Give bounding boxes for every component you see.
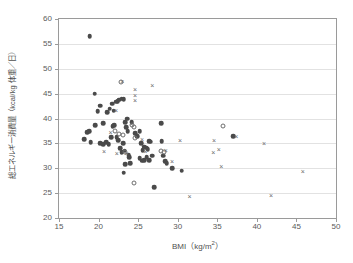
data-point-cross bbox=[169, 160, 174, 165]
y-axis-title: 総エネルギー消費量（kcal/kg 体重／日） bbox=[8, 14, 17, 214]
y-tick-label: 45 bbox=[43, 90, 52, 98]
data-point-cross bbox=[143, 149, 148, 154]
y-tick-label: 20 bbox=[43, 214, 52, 222]
data-point-cross bbox=[120, 79, 125, 84]
data-point-cross bbox=[124, 151, 129, 156]
y-gridline bbox=[59, 69, 336, 70]
data-point-filled-circle bbox=[160, 139, 165, 144]
y-tick-label: 25 bbox=[43, 189, 52, 197]
data-point-filled-circle bbox=[82, 137, 87, 142]
data-point-filled-circle bbox=[93, 123, 98, 128]
y-tick-mark bbox=[55, 94, 59, 95]
data-point-cross bbox=[150, 83, 155, 88]
data-point-cross bbox=[132, 98, 137, 103]
x-tick-label: 30 bbox=[173, 223, 182, 231]
data-point-filled-circle bbox=[159, 121, 164, 126]
y-gridline bbox=[59, 94, 336, 95]
y-tick-mark bbox=[55, 69, 59, 70]
data-point-cross bbox=[139, 137, 144, 142]
y-gridline bbox=[59, 119, 336, 120]
data-point-filled-circle bbox=[87, 129, 92, 134]
y-tick-mark bbox=[55, 193, 59, 194]
data-point-filled-circle bbox=[147, 158, 152, 163]
data-point-filled-circle bbox=[137, 129, 142, 134]
y-gridline bbox=[59, 168, 336, 169]
data-point-cross bbox=[113, 108, 118, 113]
y-gridline bbox=[59, 44, 336, 45]
data-point-cross bbox=[114, 152, 119, 157]
data-point-filled-circle bbox=[149, 140, 154, 145]
y-tick-label: 50 bbox=[43, 65, 52, 73]
data-point-filled-circle bbox=[150, 154, 155, 159]
y-gridline bbox=[59, 193, 336, 194]
x-tick-label: 50 bbox=[332, 223, 341, 231]
y-tick-label: 35 bbox=[43, 139, 52, 147]
data-point-open-circle bbox=[121, 133, 126, 138]
data-point-cross bbox=[234, 134, 239, 139]
y-tick-label: 30 bbox=[43, 164, 52, 172]
data-point-filled-circle bbox=[88, 140, 93, 145]
data-point-filled-circle bbox=[95, 109, 100, 114]
data-point-cross bbox=[177, 138, 182, 143]
x-tick-label: 45 bbox=[292, 223, 301, 231]
data-point-cross bbox=[163, 149, 168, 154]
data-point-cross bbox=[261, 141, 266, 146]
x-axis-title-unit-open: （kg/m bbox=[186, 242, 211, 251]
x-tick-label: 15 bbox=[55, 223, 64, 231]
data-point-filled-circle bbox=[126, 129, 131, 134]
x-tick-label: 40 bbox=[252, 223, 261, 231]
y-tick-label: 60 bbox=[43, 15, 52, 23]
y-tick-mark bbox=[55, 119, 59, 120]
data-point-filled-circle bbox=[179, 168, 184, 173]
x-tick-label: 35 bbox=[213, 223, 222, 231]
data-point-cross bbox=[187, 194, 192, 199]
data-point-filled-circle bbox=[112, 123, 117, 128]
y-tick-mark bbox=[55, 44, 59, 45]
data-point-open-circle bbox=[132, 135, 137, 140]
data-point-cross bbox=[108, 130, 113, 135]
data-point-cross bbox=[268, 193, 273, 198]
y-tick-label: 40 bbox=[43, 115, 52, 123]
data-point-open-circle bbox=[129, 122, 134, 127]
x-axis-title-main: BMI bbox=[172, 242, 186, 251]
y-tick-mark bbox=[55, 19, 59, 20]
x-tick-label: 25 bbox=[134, 223, 143, 231]
y-tick-mark bbox=[55, 168, 59, 169]
data-point-filled-circle bbox=[164, 161, 169, 166]
data-point-filled-circle bbox=[170, 166, 175, 171]
data-point-cross bbox=[216, 148, 221, 153]
data-point-filled-circle bbox=[121, 141, 126, 146]
data-point-filled-circle bbox=[122, 97, 127, 102]
data-point-filled-circle bbox=[107, 142, 112, 147]
y-tick-mark bbox=[55, 143, 59, 144]
x-axis-title: BMI（kg/m2） bbox=[58, 238, 337, 252]
data-point-filled-circle bbox=[101, 121, 106, 126]
plot-area: 2025303540455055601520253035404550 bbox=[58, 18, 337, 219]
x-tick-label: 20 bbox=[94, 223, 103, 231]
data-point-filled-circle bbox=[122, 170, 127, 175]
data-point-filled-circle bbox=[152, 185, 157, 190]
data-point-cross bbox=[219, 164, 224, 169]
data-point-filled-circle bbox=[123, 162, 128, 167]
data-point-filled-circle bbox=[98, 103, 103, 108]
x-axis-title-unit-close: ） bbox=[215, 242, 223, 251]
data-point-filled-circle bbox=[88, 34, 93, 39]
data-point-filled-circle bbox=[92, 91, 97, 96]
data-point-open-circle bbox=[132, 181, 137, 186]
data-point-cross bbox=[300, 169, 305, 174]
y-tick-label: 55 bbox=[43, 40, 52, 48]
data-point-cross bbox=[211, 138, 216, 143]
data-point-cross bbox=[101, 149, 106, 154]
scatter-plot-figure: 総エネルギー消費量（kcal/kg 体重／日） 2025303540455055… bbox=[0, 0, 353, 263]
data-point-open-circle bbox=[220, 123, 225, 128]
data-point-filled-circle bbox=[125, 116, 130, 121]
data-point-filled-circle bbox=[128, 161, 133, 166]
